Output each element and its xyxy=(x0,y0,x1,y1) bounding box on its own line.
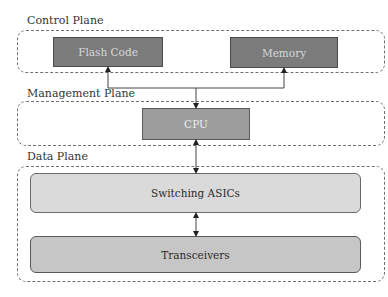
connector-lines xyxy=(0,0,388,297)
